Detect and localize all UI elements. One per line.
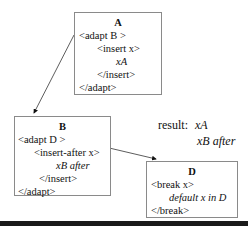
- result-line-1: result: xA: [158, 117, 208, 133]
- node-a-line: </adapt>: [75, 81, 161, 94]
- node-d-line: <break x>: [147, 178, 237, 191]
- node-b-line: <adapt D >: [15, 133, 110, 146]
- node-a-line: <adapt B >: [75, 29, 161, 42]
- node-b-line: <insert-after x>: [15, 146, 110, 159]
- node-a-line: </insert>: [75, 68, 161, 81]
- result-label: result:: [158, 118, 188, 132]
- node-a: A <adapt B > <insert x> xA </insert> </a…: [74, 12, 162, 95]
- node-b-line: xB after: [15, 159, 110, 172]
- node-a-line: xA: [75, 55, 161, 68]
- bottom-rule: [0, 221, 248, 226]
- node-a-line: <insert x>: [75, 42, 161, 55]
- result-value-2: xB after: [197, 133, 235, 149]
- node-d-line: </break>: [147, 204, 237, 217]
- node-b: B <adapt D > <insert-after x> xB after <…: [14, 116, 111, 196]
- node-b-line: </adapt>: [15, 185, 110, 198]
- arrow-a-to-b: [34, 35, 74, 113]
- node-d-line: default x in D: [147, 191, 237, 204]
- node-b-line: </insert>: [15, 172, 110, 185]
- node-d: D <break x> default x in D </break>: [146, 161, 238, 218]
- result-value-1: xA: [195, 118, 208, 132]
- node-a-title: A: [75, 16, 161, 29]
- node-d-title: D: [147, 165, 237, 178]
- node-b-title: B: [15, 120, 110, 133]
